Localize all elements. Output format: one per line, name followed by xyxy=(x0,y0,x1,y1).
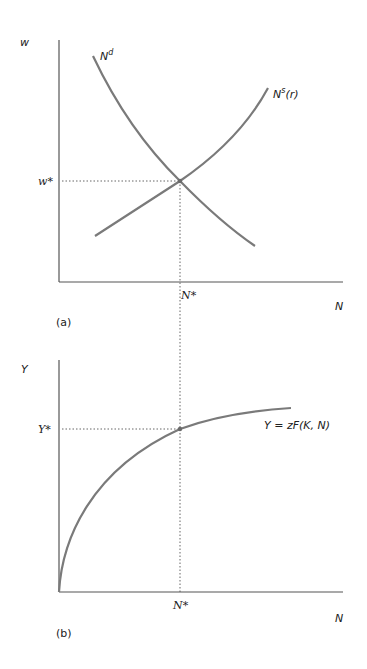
labor-supply-curve xyxy=(95,88,268,236)
figure-graphics xyxy=(0,0,367,669)
panel-b-graphics xyxy=(59,360,343,592)
panel-a-graphics xyxy=(59,40,343,592)
equilibrium-output-label: Y* xyxy=(38,424,51,435)
labor-market-figure: w Nd Ns(r) w* N* N (a) Y Y* Y = zF(K, N)… xyxy=(0,0,367,669)
labor-supply-label: Ns(r) xyxy=(273,89,299,100)
labor-demand-curve xyxy=(93,56,255,246)
labor-demand-label-sup: d xyxy=(108,48,113,57)
panel-b-equilibrium-point xyxy=(178,427,182,431)
panel-b-y-axis-label: Y xyxy=(21,364,28,375)
panel-a-y-axis-label: w xyxy=(20,37,29,48)
panel-b-x-axis-label: N xyxy=(335,613,343,624)
labor-supply-label-suffix: (r) xyxy=(285,88,298,101)
production-function-label: Y = zF(K, N) xyxy=(264,420,330,431)
panel-a-equilibrium-employment-label: N* xyxy=(181,290,196,301)
production-function-curve xyxy=(59,408,291,592)
panel-a-equilibrium-point xyxy=(178,179,182,183)
panel-b-tag: (b) xyxy=(56,628,72,639)
equilibrium-wage-label: w* xyxy=(38,176,53,187)
panel-a-tag: (a) xyxy=(56,317,71,328)
labor-demand-label-base: N xyxy=(100,50,108,63)
labor-supply-label-base: N xyxy=(273,88,281,101)
panel-a-x-axis-label: N xyxy=(335,301,343,312)
labor-demand-label: Nd xyxy=(100,51,113,62)
panel-b-equilibrium-employment-label: N* xyxy=(173,600,188,611)
